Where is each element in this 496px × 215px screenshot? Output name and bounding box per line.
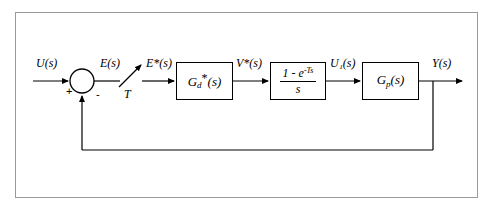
summing-junction-minus-sign: - [96,89,100,100]
zoh-denominator: s [280,82,317,96]
zoh-numerator: 1 - e-Ts [280,67,317,82]
block-digital-controller: Gd*(s) [176,62,233,100]
summing-junction-plus-sign: + [66,86,72,97]
signal-label-error: E(s) [100,57,120,69]
signal-label-sampled-error: E*(s) [146,57,172,69]
gp-main: G [377,72,386,87]
diagram-page: + - U(s) E(s) E*(s) V*(s) U₁(s) Y(s) T G… [0,0,496,215]
signal-label-controller-output: V*(s) [236,57,262,69]
summing-junction-circle [70,69,94,93]
gd-argument: (s) [208,74,222,89]
gd-main: G [188,74,197,89]
sampler-period-label: T [124,88,131,100]
block-digital-controller-label: Gd*(s) [188,72,222,90]
signal-label-output: Y(s) [432,57,451,69]
gp-argument: (s) [391,72,405,87]
signal-label-input: U(s) [36,57,57,69]
wiring-layer [0,0,496,215]
block-zero-order-hold: 1 - e-Ts s [270,62,326,100]
sampler-switch-arm [119,65,141,87]
signal-label-hold-output: U₁(s) [330,57,356,69]
zoh-numerator-lead: 1 - [283,66,299,80]
zoh-transfer-function: 1 - e-Ts s [280,67,317,95]
zoh-numerator-exponent: -Ts [304,66,314,75]
block-plant: Gp(s) [362,62,419,100]
block-plant-label: Gp(s) [377,73,405,89]
